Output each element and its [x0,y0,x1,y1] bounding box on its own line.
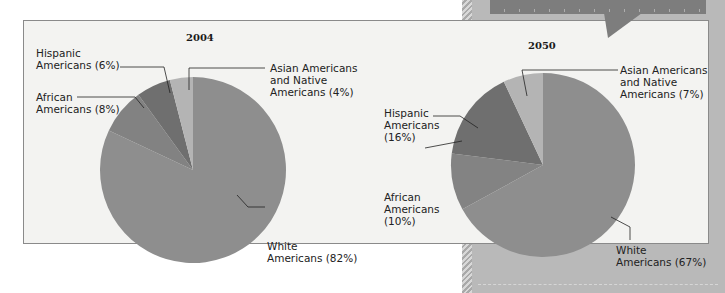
label-line: White [267,240,357,252]
label-2004-african: African Americans (8%) [36,91,120,115]
label-2050-hispanic: Hispanic Americans (16%) [384,107,439,143]
label-line: and Native [620,76,707,88]
label-line: (16%) [384,131,439,143]
pie-chart-2004 [100,77,286,263]
label-2050-asian: Asian Americans and Native Americans (7%… [620,64,707,100]
label-line: Asian Americans [620,64,707,76]
pie-title-2004: 2004 [186,32,214,43]
label-line: Hispanic [36,47,120,59]
label-line: Asian Americans [270,62,357,74]
label-line: Americans (7%) [620,88,707,100]
label-line: Americans (82%) [267,252,357,264]
label-2004-asian: Asian Americans and Native Americans (4%… [270,62,357,98]
label-2004-white: White Americans (82%) [267,240,357,264]
label-line: African [384,191,439,203]
label-line: Americans [384,203,439,215]
label-line: African [36,91,120,103]
label-2050-african: African Americans (10%) [384,191,439,227]
label-line: Hispanic [384,107,439,119]
label-line: (10%) [384,215,439,227]
pie-chart-2050 [451,73,635,257]
label-line: Americans (67%) [616,256,706,268]
label-2004-hispanic: Hispanic Americans (6%) [36,47,120,71]
label-line: White [616,244,706,256]
label-line: Americans [384,119,439,131]
label-line: and Native [270,74,357,86]
label-2050-white: White Americans (67%) [616,244,706,268]
label-line: Americans (8%) [36,103,120,115]
label-line: Americans (4%) [270,86,357,98]
label-line: Americans (6%) [36,59,120,71]
pie-title-2050: 2050 [528,40,556,51]
